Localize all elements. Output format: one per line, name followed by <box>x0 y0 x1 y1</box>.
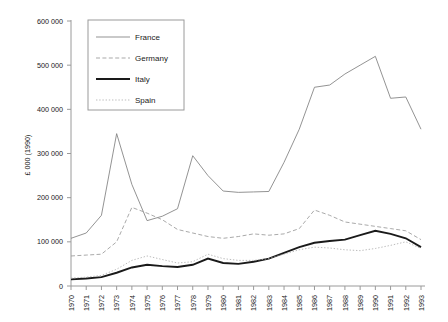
legend-label-germany: Germany <box>135 54 168 63</box>
x-tick-label: 1992 <box>402 295 411 311</box>
x-tick-label: 1983 <box>265 295 274 311</box>
y-axis-title: £ 000 (1990) <box>23 135 32 176</box>
y-tick-label: 400 000 <box>37 105 63 114</box>
legend-label-france: France <box>135 33 160 42</box>
x-tick-label: 1993 <box>417 295 426 311</box>
x-tick-label: 1980 <box>219 295 228 311</box>
x-tick-label: 1990 <box>371 295 380 311</box>
x-tick-label: 1989 <box>356 295 365 311</box>
x-tick-label: 1981 <box>234 295 243 311</box>
x-tick-label: 1985 <box>295 295 304 311</box>
x-tick-label: 1970 <box>67 295 76 311</box>
x-tick-label: 1976 <box>158 295 167 311</box>
legend-label-italy: Italy <box>135 75 150 84</box>
y-tick-label: 300 000 <box>37 149 63 158</box>
y-tick-label: 200 000 <box>37 193 63 202</box>
x-tick-label: 1973 <box>112 295 121 311</box>
x-tick-label: 1988 <box>341 295 350 311</box>
legend-label-spain: Spain <box>135 96 155 105</box>
y-tick-label: 500 000 <box>37 61 63 70</box>
x-tick-label: 1971 <box>82 295 91 311</box>
x-tick-label: 1986 <box>310 295 319 311</box>
x-tick-label: 1974 <box>128 295 137 311</box>
x-tick-label: 1979 <box>204 295 213 311</box>
chart-svg: 0100 000200 000300 000400 000500 000600 … <box>0 0 448 322</box>
x-tick-label: 1984 <box>280 295 289 311</box>
chart-legend: FranceGermanyItalySpain <box>88 20 184 110</box>
y-tick-label: 600 000 <box>37 17 63 26</box>
x-tick-label: 1982 <box>249 295 258 311</box>
y-tick-label: 100 000 <box>37 237 63 246</box>
x-tick-label: 1975 <box>143 295 152 311</box>
x-tick-label: 1977 <box>173 295 182 311</box>
x-tick-label: 1972 <box>97 295 106 311</box>
chart-background <box>0 0 448 322</box>
x-tick-label: 1991 <box>386 295 395 311</box>
line-chart: 0100 000200 000300 000400 000500 000600 … <box>0 0 448 322</box>
x-tick-label: 1987 <box>325 295 334 311</box>
y-tick-label: 0 <box>59 282 63 291</box>
x-tick-label: 1978 <box>189 295 198 311</box>
